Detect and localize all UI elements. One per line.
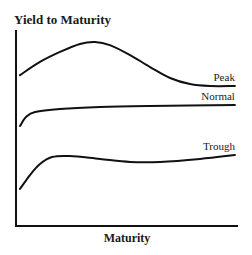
y-axis-label: Yield to Maturity xyxy=(14,12,111,27)
series-label-normal: Normal xyxy=(201,90,235,102)
series-label-peak: Peak xyxy=(214,71,236,83)
series-line-trough xyxy=(20,155,235,189)
yield-curve-chart: Yield to Maturity Maturity PeakNormalTro… xyxy=(0,0,252,255)
x-axis-label: Maturity xyxy=(104,231,151,245)
series-line-peak xyxy=(20,42,235,86)
series-line-normal xyxy=(20,105,235,126)
series-label-trough: Trough xyxy=(203,140,235,152)
series-layer: PeakNormalTrough xyxy=(20,42,235,189)
